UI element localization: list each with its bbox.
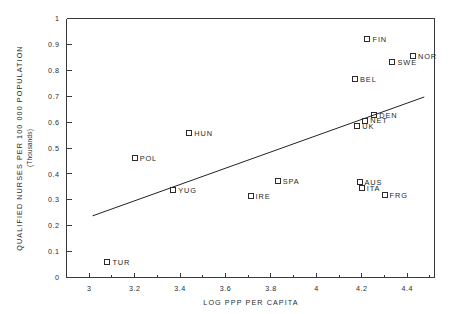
- data-point-label: TUR: [112, 258, 130, 267]
- y-tick-label: 0: [55, 273, 60, 282]
- data-point-label: DEN: [379, 111, 397, 120]
- x-tick-label: 3.8: [265, 284, 277, 293]
- y-tick-label: 0.5: [48, 144, 60, 153]
- y-axis-title: QUALIFIED NURSES PER 100 000 POPULATION: [15, 45, 24, 250]
- data-point-label: FRG: [390, 191, 408, 200]
- x-tick-label: 3.6: [220, 284, 232, 293]
- x-tick-label: 4.2: [356, 284, 368, 293]
- y-tick-label: 0.2: [48, 221, 60, 230]
- y-tick-label: 0.4: [48, 170, 60, 179]
- data-point-label: FIN: [372, 35, 387, 44]
- x-tick-label: 4: [314, 284, 319, 293]
- plot-background: [0, 0, 454, 314]
- data-point-label: SWE: [397, 58, 417, 67]
- data-point-label: YUG: [178, 186, 197, 195]
- x-tick-label: 4.4: [401, 284, 413, 293]
- x-axis-title: LOG PPP PER CAPITA: [203, 298, 298, 307]
- data-point-label: BEL: [360, 75, 377, 84]
- plot-canvas: 33.23.43.63.844.24.4 00.10.20.30.40.50.6…: [0, 0, 454, 314]
- y-tick-label: 0.1: [48, 247, 60, 256]
- y-tick-label: 0.8: [48, 66, 60, 75]
- y-axis-subtitle: (Thousands): [26, 129, 34, 167]
- y-tick-label: 0.6: [48, 118, 60, 127]
- y-tick-label: 0.9: [48, 40, 60, 49]
- y-tick-label: 0.3: [48, 195, 60, 204]
- data-point-label: ITA: [367, 184, 381, 193]
- x-tick-label: 3.4: [174, 284, 186, 293]
- data-point-label: HUN: [194, 129, 213, 138]
- x-tick-label: 3.2: [129, 284, 141, 293]
- y-tick-label: 1: [55, 14, 60, 23]
- y-tick-label: 0.7: [48, 92, 60, 101]
- data-point-label: POL: [140, 154, 158, 163]
- data-point-label: NOR: [418, 52, 437, 61]
- data-point-label: IRE: [256, 192, 271, 201]
- scatter-plot-figure: 33.23.43.63.844.24.4 00.10.20.30.40.50.6…: [0, 0, 454, 314]
- x-tick-label: 3: [87, 284, 92, 293]
- data-point-label: SPA: [283, 177, 300, 186]
